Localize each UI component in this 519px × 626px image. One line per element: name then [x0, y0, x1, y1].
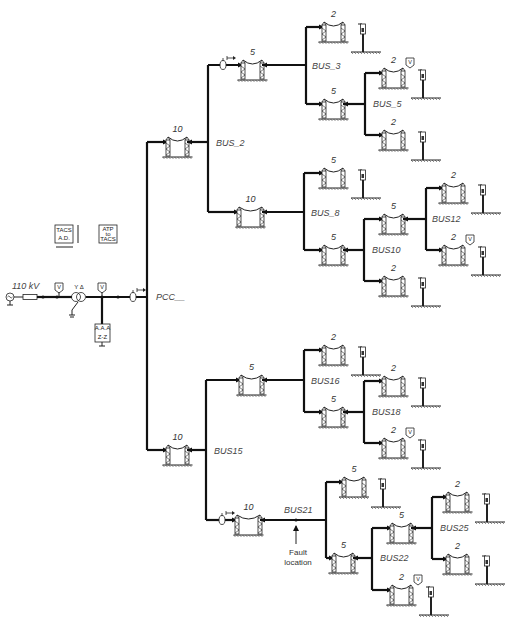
line-length-label: 2: [454, 479, 460, 489]
voltmeter-icon: [406, 428, 414, 438]
conductor-sag: [243, 60, 262, 64]
source-voltage-label: 110 kV: [12, 281, 40, 291]
tower-icon: [465, 554, 469, 573]
bus-label: BUS_5: [373, 99, 403, 109]
ground-icon: [419, 615, 449, 617]
tower-icon: [342, 477, 346, 496]
tacs-ad-line2: A.D.: [58, 235, 70, 241]
overhead-line: [439, 245, 469, 267]
overhead-line: [443, 492, 473, 514]
tower-icon: [237, 207, 241, 226]
conductor-sag: [384, 438, 403, 442]
overhead-line: [379, 276, 409, 298]
tower-icon: [382, 276, 386, 295]
tower-icon: [260, 60, 264, 79]
load: [475, 556, 505, 586]
line-length-label: 2: [450, 170, 456, 180]
overhead-line: [319, 22, 349, 44]
ground-icon: [319, 427, 349, 429]
overhead-line: [163, 445, 193, 467]
tower-icon: [166, 445, 170, 464]
tower-icon: [461, 183, 465, 202]
tower-icon: [166, 137, 170, 156]
bus-label: BUS15: [214, 446, 244, 456]
conductor-sag: [168, 137, 187, 141]
tower-icon: [382, 438, 386, 457]
overhead-line: [163, 137, 193, 159]
load: [475, 494, 505, 524]
conductor-sag: [384, 276, 403, 280]
ground-icon: [379, 234, 409, 236]
voltmeter-icon: [406, 58, 414, 68]
node-dot: [116, 295, 119, 298]
bus-label: BUS_8: [311, 208, 340, 218]
bus-label: BUS12: [432, 214, 461, 224]
line-length-label: 10: [245, 194, 255, 204]
overhead-line: [379, 130, 409, 152]
voltmeter-icon: [466, 235, 474, 245]
ground-icon: [163, 157, 193, 159]
ground-icon: [351, 52, 381, 54]
tower-icon: [260, 207, 264, 226]
line-length-label: 2: [390, 263, 396, 273]
tower-icon: [341, 345, 345, 364]
conductor-sag: [448, 492, 467, 496]
ground-icon: [371, 507, 401, 509]
line-length-label: 2: [390, 363, 396, 373]
ground-icon: [475, 522, 505, 524]
conductor-sag: [384, 130, 403, 134]
tower-icon: [241, 60, 245, 79]
ground-icon: [379, 296, 409, 298]
load-core: [482, 189, 485, 193]
overhead-line: [439, 183, 469, 205]
bus-label: BUS25: [440, 523, 470, 533]
load-core: [422, 382, 425, 386]
overhead-line: [379, 376, 409, 398]
conductor-sag: [392, 585, 411, 589]
load: [411, 278, 441, 308]
load-core: [422, 444, 425, 448]
ground-icon: [237, 395, 267, 397]
tower-icon: [409, 523, 413, 542]
tower-icon: [332, 553, 336, 572]
conductor-sag: [324, 99, 343, 103]
ground-icon: [443, 574, 473, 576]
line-length-label: 5: [341, 540, 347, 550]
load-core: [422, 74, 425, 78]
tower-icon: [382, 214, 386, 233]
line-length-label: 5: [331, 394, 337, 404]
tower-icon: [322, 407, 326, 426]
tower-icon: [362, 477, 366, 496]
overhead-line: [319, 345, 349, 367]
line-length-label: 5: [249, 362, 255, 372]
load-core: [382, 483, 385, 487]
ground-icon: [411, 406, 441, 408]
line-length-label: 2: [330, 332, 336, 342]
tower-icon: [322, 22, 326, 41]
conductor-sag: [444, 183, 463, 187]
ground-icon: [471, 275, 501, 277]
overhead-line: [379, 438, 409, 460]
transformer-winding: [77, 293, 86, 302]
ground-icon: [319, 365, 349, 367]
tower-icon: [322, 345, 326, 364]
load: [411, 378, 441, 408]
conductor-sag: [324, 168, 343, 172]
ground-icon: [411, 468, 441, 470]
bus-label: BUS16: [311, 376, 340, 386]
overhead-line: [379, 214, 409, 236]
load-core: [430, 591, 433, 595]
overhead-line: [234, 515, 264, 537]
source-impedance: [23, 295, 37, 300]
zz-label: Z-Z: [98, 334, 108, 340]
node-dot: [55, 295, 58, 298]
ground-icon: [387, 605, 417, 607]
current-probe-icon: [219, 511, 235, 525]
load-core: [362, 351, 365, 355]
ground-icon: [319, 265, 349, 267]
conductor-sag: [444, 245, 463, 249]
load: [471, 247, 501, 277]
tower-icon: [341, 245, 345, 264]
voltmeter-icon: [414, 575, 422, 585]
tower-icon: [382, 68, 386, 87]
